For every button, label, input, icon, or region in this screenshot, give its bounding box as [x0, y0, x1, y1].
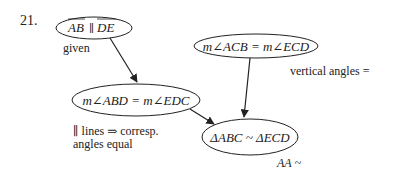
- given-segment-ab: AB: [67, 20, 84, 35]
- corresp-reason-line2: angles equal: [73, 137, 133, 151]
- conclusion-node: ΔABC ~ ΔECD AA ~: [202, 119, 301, 170]
- given-reason: given: [63, 41, 90, 55]
- given-node: AB ∥ DE given: [56, 17, 132, 55]
- vertical-reason: vertical angles =: [290, 64, 370, 78]
- arrow-vertical-to-conclusion: [244, 58, 250, 117]
- flow-diagram: 21. AB ∥ DE given m∠ACB = m∠ECD vertical…: [0, 0, 398, 175]
- problem-number: 21.: [20, 13, 38, 28]
- vertical-statement: m∠ACB = m∠ECD: [203, 39, 310, 54]
- conclusion-reason: AA ~: [276, 156, 301, 170]
- conclusion-statement: ΔABC ~ ΔECD: [209, 130, 290, 145]
- arrow-corresp-to-conclusion: [190, 109, 214, 124]
- corresp-reason-line1: ∥ lines ⇒ corresp.: [73, 124, 159, 138]
- arrow-given-to-corresp: [110, 38, 137, 82]
- vertical-angles-node: m∠ACB = m∠ECD vertical angles =: [194, 34, 370, 78]
- corresponding-angles-node: m∠ABD = m∠EDC ∥ lines ⇒ corresp. angles …: [72, 84, 200, 151]
- corresp-statement: m∠ABD = m∠EDC: [82, 93, 189, 108]
- given-segment-de: DE: [96, 20, 114, 35]
- parallel-symbol: ∥: [89, 22, 94, 34]
